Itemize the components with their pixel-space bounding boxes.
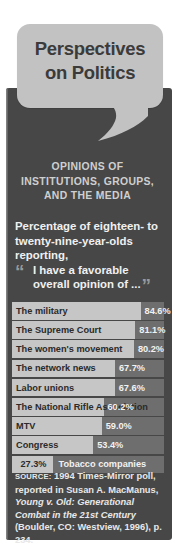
bar-row: The women's movement80.2% — [12, 340, 164, 358]
bar-value: 67.7% — [119, 360, 145, 378]
figure-lead-text: Percentage of eighteen- to twenty-nine-y… — [15, 219, 165, 292]
close-quote-mark: ” — [142, 275, 152, 296]
bar-value: 59.0% — [106, 417, 132, 435]
page-title: Perspectives on Politics — [17, 37, 163, 85]
kicker-line-1: OPINIONS OF — [52, 161, 124, 172]
bar-chart: The military84.6%The Supreme Court81.1%T… — [12, 302, 164, 475]
title-line-1: Perspectives — [35, 38, 146, 59]
figure-kicker-heading: OPINIONS OF INSTITUTIONS, GROUPS, AND TH… — [8, 160, 167, 204]
lead-line-3: reporting, — [15, 249, 68, 261]
bar-label: The Supreme Court — [16, 321, 101, 339]
bar-label: The military — [16, 302, 68, 320]
bar-row: MTV59.0% — [12, 417, 164, 435]
kicker-line-2: INSTITUTIONS, GROUPS, — [21, 176, 154, 187]
bar-value: 80.2% — [138, 340, 164, 358]
bar-row: The network news67.7% — [12, 360, 164, 378]
source-text-after: (Boulder, CO: Westview, 1996), p. 234. — [15, 522, 162, 545]
bar-value: 67.6% — [119, 379, 145, 397]
bar-label: Labor unions — [16, 379, 74, 397]
bar-value: 84.6% — [145, 302, 171, 320]
speech-bubble-tail — [96, 100, 148, 142]
bar-row: The Supreme Court81.1% — [12, 321, 164, 339]
bar-value: 60.2% — [108, 398, 134, 416]
title-speech-bubble: Perspectives on Politics — [17, 24, 163, 108]
bar-label: The women's movement — [16, 340, 122, 358]
kicker-line-3: AND THE MEDIA — [44, 190, 131, 201]
bar-label: The network news — [16, 360, 96, 378]
source-note: SOURCE: 1994 Times-Mirror poll, reported… — [15, 470, 163, 547]
quote-text: I have a favorable overall opinion of ..… — [33, 264, 141, 291]
survey-question-quote: “I have a favorable overall opinion of .… — [15, 263, 165, 292]
bar-label: MTV — [16, 417, 35, 435]
lead-line-2: twenty-nine-year-olds — [15, 235, 133, 247]
bar-row: Labor unions67.6% — [12, 379, 164, 397]
bar-row: Congress53.4% — [12, 436, 164, 454]
source-book-title: Young v. Old: Generational Combat in the… — [15, 497, 136, 520]
bar-row: The National Rifle Association60.2% — [12, 398, 164, 416]
bar-row: The military84.6% — [12, 302, 164, 320]
lead-line-1: Percentage of eighteen- to — [15, 220, 158, 232]
title-line-2: on Politics — [45, 62, 135, 83]
bar-value: 81.1% — [139, 321, 165, 339]
bar-label: Congress — [16, 436, 58, 454]
bar-value: 53.4% — [97, 436, 123, 454]
source-label: SOURCE: — [15, 472, 51, 481]
